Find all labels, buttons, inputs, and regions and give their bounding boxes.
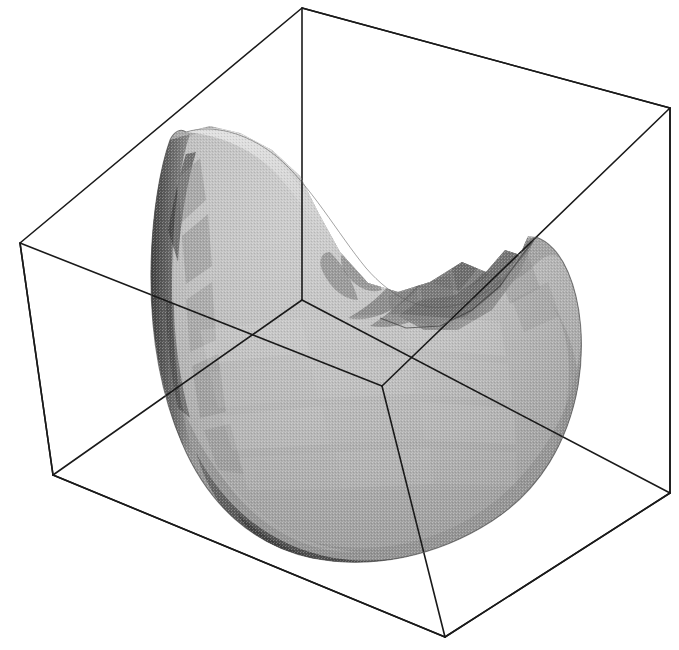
surface-plot[interactable] [0, 0, 679, 650]
figure-container [0, 0, 679, 650]
